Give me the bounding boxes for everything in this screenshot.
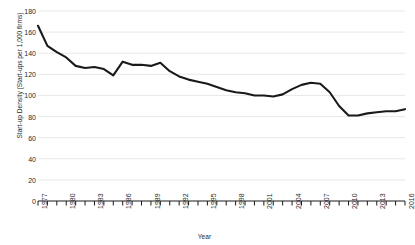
x-axis-tick-label: 2013 (379, 193, 386, 209)
x-axis-tick-label: 2016 (408, 193, 415, 209)
x-axis-tick-label: 1986 (125, 193, 132, 209)
data-line-startup-density (38, 26, 405, 116)
x-axis-tick-label: 2001 (266, 193, 273, 209)
x-axis-tick-label: 1977 (41, 193, 48, 209)
x-axis-title: Year (0, 233, 409, 240)
x-axis-tick-label: 2010 (351, 193, 358, 209)
gridlines (38, 11, 405, 180)
x-axis-tick-label: 1983 (97, 193, 104, 209)
x-axis-tick-label: 2004 (295, 193, 302, 209)
x-axis-ticks (38, 201, 405, 206)
x-axis-tick-label: 1980 (69, 193, 76, 209)
x-axis-tick-label: 1998 (238, 193, 245, 209)
x-axis-tick-label: 2007 (323, 193, 330, 209)
x-axis-tick-label: 1992 (182, 193, 189, 209)
x-axis-tick-label: 1989 (154, 193, 161, 209)
x-axis-tick-label: 1995 (210, 193, 217, 209)
